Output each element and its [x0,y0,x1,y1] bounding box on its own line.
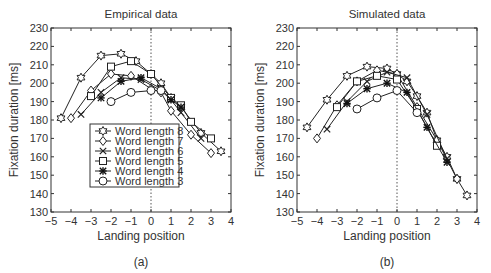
square-marker-icon [108,63,115,70]
x-tick-label: 2 [188,215,194,227]
x-tick-label: 3 [454,215,460,227]
y-tick-label: 230 [30,22,48,34]
square-marker-icon [88,93,95,100]
circle-marker-icon [107,98,115,106]
x-tick-label: 1 [414,215,420,227]
panel-caption: (b) [380,255,395,269]
asterisk-marker-icon [177,103,184,110]
star-marker-icon [57,114,65,123]
circle-marker-icon [393,87,401,95]
y-tick-label: 170 [276,132,294,144]
square-marker-icon [188,118,195,125]
y-tick-label: 180 [30,114,48,126]
x-marker-icon [78,111,84,117]
chart-title: Empirical data [105,8,178,20]
y-tick-label: 220 [276,40,294,52]
empirical-chart: Empirical data−5−4−3−2−10123413014015016… [7,8,234,269]
legend: Word length 8Word length 7Word length 6W… [90,124,183,187]
x-tick-label: −4 [65,215,78,227]
panel-caption: (a) [134,255,149,269]
asterisk-marker-icon [383,80,390,87]
x-tick-label: −3 [331,215,344,227]
x-tick-label: −1 [371,215,384,227]
x-tick-label: 3 [208,215,214,227]
y-tick-label: 160 [276,151,294,163]
asterisk-marker-icon [137,74,144,81]
circle-marker-icon [373,94,381,102]
series-word-length-3 [107,87,165,106]
y-tick-label: 130 [30,206,48,218]
legend-label: Word length 3 [115,175,183,187]
x-tick-label: −3 [85,215,98,227]
star-marker-icon [363,62,371,71]
x-tick-label: 1 [168,215,174,227]
y-tick-label: 210 [30,59,48,71]
x-tick-label: 0 [394,215,400,227]
y-tick-label: 170 [30,132,48,144]
asterisk-marker-icon [117,78,124,85]
y-tick-label: 130 [276,206,294,218]
asterisk-marker-icon [167,96,174,103]
star-marker-icon [463,191,471,200]
x-tick-label: 4 [474,215,480,227]
circle-marker-icon [99,177,107,185]
x-tick-label: −2 [105,215,118,227]
asterisk-marker-icon [423,124,430,131]
square-marker-icon [374,72,381,79]
y-tick-label: 210 [276,59,294,71]
x-marker-icon [324,126,330,132]
x-axis-label: Landing position [97,229,184,243]
square-marker-icon [128,58,135,65]
circle-marker-icon [353,105,361,113]
asterisk-marker-icon [97,94,104,101]
asterisk-marker-icon [363,85,370,92]
asterisk-marker-icon [443,159,450,166]
square-marker-icon [208,135,215,142]
y-tick-label: 200 [276,77,294,89]
square-marker-icon [394,76,401,83]
circle-marker-icon [157,87,165,95]
x-tick-label: −1 [125,215,138,227]
y-tick-label: 150 [30,169,48,181]
plot-frame [297,28,477,212]
diamond-marker-icon [208,149,215,158]
circle-marker-icon [413,109,421,117]
y-tick-label: 150 [276,169,294,181]
asterisk-marker-icon [343,100,350,107]
x-tick-label: 0 [148,215,154,227]
circle-marker-icon [127,88,135,96]
asterisk-marker-icon [403,89,410,96]
y-tick-label: 140 [276,188,294,200]
square-marker-icon [148,71,155,78]
square-marker-icon [334,104,341,111]
y-tick-label: 190 [276,96,294,108]
star-marker-icon [117,49,125,58]
asterisk-marker-icon [99,167,106,174]
x-tick-label: −4 [311,215,324,227]
y-tick-label: 190 [30,96,48,108]
x-axis-label: Landing position [343,229,430,243]
x-tick-label: 2 [434,215,440,227]
y-tick-label: 140 [30,188,48,200]
square-marker-icon [100,158,107,165]
square-marker-icon [354,78,361,85]
figure: Empirical data−5−4−3−2−10123413014015016… [0,0,491,273]
x-tick-label: 4 [228,215,234,227]
y-tick-label: 200 [30,77,48,89]
chart-title: Simulated data [349,8,426,20]
y-axis-label: Fixation duration [ms] [7,63,21,178]
x-tick-label: −2 [351,215,364,227]
simulated-chart: Simulated data−5−4−3−2−10123413014015016… [253,8,480,269]
y-tick-label: 160 [30,151,48,163]
y-tick-label: 180 [276,114,294,126]
y-tick-label: 230 [276,22,294,34]
y-axis-label: Fixation duration [ms] [253,63,267,178]
circle-marker-icon [147,87,155,95]
y-tick-label: 220 [30,40,48,52]
